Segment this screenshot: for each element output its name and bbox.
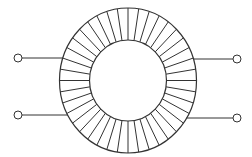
winding-line [159, 38, 183, 57]
winding-line [117, 9, 122, 41]
winding-line [80, 29, 101, 52]
winding-line [60, 87, 90, 92]
winding-line [97, 16, 111, 45]
winding-line [151, 113, 169, 139]
winding-line [117, 121, 122, 153]
winding-line [166, 87, 196, 92]
winding-line [63, 58, 92, 68]
winding-line [73, 38, 97, 57]
winding-line [80, 109, 101, 132]
winding-line [165, 93, 194, 103]
terminal-left-top-icon [14, 54, 22, 62]
winding-line [107, 12, 116, 42]
winding-line [155, 109, 176, 132]
winding-line [162, 99, 189, 114]
winding-line [134, 9, 139, 41]
winding-line [60, 69, 90, 74]
winding-line [88, 113, 106, 139]
winding-line [63, 93, 92, 103]
winding-line [151, 22, 169, 48]
core-inner-edge [90, 40, 167, 121]
toroid-diagram [0, 0, 252, 157]
winding-line [140, 119, 149, 149]
winding-line [155, 29, 176, 52]
winding-line [145, 16, 159, 45]
winding-line [67, 48, 94, 63]
winding-line [134, 121, 139, 153]
winding-line [97, 117, 111, 146]
winding-line [145, 117, 159, 146]
winding-line [166, 69, 196, 74]
winding-line [107, 119, 116, 149]
terminal-right-top-icon [233, 55, 241, 63]
winding-line [88, 22, 106, 48]
winding-line [67, 99, 94, 114]
terminal-right-bottom-icon [233, 114, 241, 122]
winding-line [73, 104, 97, 123]
winding-line [165, 58, 194, 68]
winding-line [162, 48, 189, 63]
winding-line [140, 12, 149, 42]
winding-line [159, 104, 183, 123]
terminal-left-bottom-icon [14, 111, 22, 119]
